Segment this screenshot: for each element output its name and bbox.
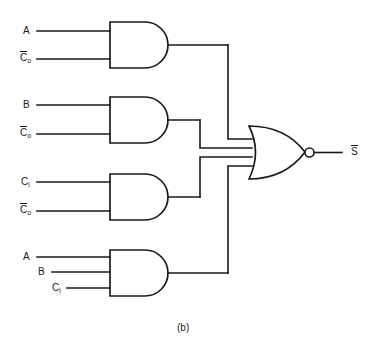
- wire-and4-to-nor-input-4: [228, 166, 252, 273]
- input-label-b-gate4: B: [38, 267, 45, 277]
- and-gate-4-body: [110, 250, 168, 296]
- and-gate-1-body: [110, 22, 168, 68]
- and-gate-3: [37, 174, 200, 220]
- input-label-cbar-o-gate3: Co: [20, 203, 31, 215]
- input-label-ci-gate4: Ci: [52, 283, 61, 293]
- wire-and3-to-nor-input-3: [200, 157, 252, 197]
- input-label-cbar-o-gate2: Co: [20, 126, 31, 138]
- logic-circuit-diagram: A Co B Co Ci Co A B Ci S (b): [0, 0, 374, 355]
- nor-gate-body: [249, 126, 305, 179]
- and-gate-2-body: [110, 97, 168, 143]
- nor-gate-inverting-bubble-icon: [305, 148, 314, 157]
- figure-caption: (b): [177, 322, 189, 333]
- circuit-svg: [0, 0, 374, 355]
- input-label-ci-gate3: Ci: [21, 177, 30, 187]
- and-gate-2: [37, 97, 200, 143]
- nor-gate: [249, 126, 342, 179]
- input-label-a-gate1: A: [23, 26, 30, 36]
- interconnect-wires: [200, 45, 252, 273]
- and-gate-3-body: [110, 174, 168, 220]
- and-gate-4: [37, 250, 228, 296]
- input-label-b-gate2: B: [23, 100, 30, 110]
- and-gate-1: [37, 22, 228, 68]
- wire-and2-to-nor-input-2: [200, 120, 252, 148]
- input-label-cbar-o-gate1: Co: [20, 51, 31, 63]
- output-label-s-bar: S: [351, 145, 358, 157]
- input-label-a-gate4: A: [23, 252, 30, 262]
- wire-and1-to-nor-input-1: [228, 45, 252, 139]
